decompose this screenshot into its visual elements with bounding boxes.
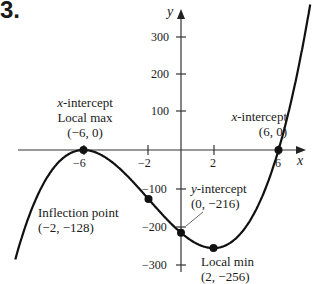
x-tick-label: 2	[210, 157, 216, 169]
key-point-marker	[177, 229, 185, 237]
y-tick-label: 100	[151, 105, 169, 117]
inflection-point-annotation: Inflection point (−2, −128)	[38, 205, 119, 235]
x-tick-label: −6	[73, 157, 86, 169]
y-tick-label: 300	[151, 31, 169, 43]
key-point-marker	[145, 195, 153, 203]
y-axis-arrow-icon	[177, 9, 185, 19]
y-tick-label: 200	[151, 68, 169, 80]
y-intercept-leader-line	[186, 212, 203, 226]
y-intercept-annotation: y-intercept (0, −216)	[191, 181, 247, 211]
local-min-annotation: Local min (2, −256)	[201, 254, 254, 284]
y-tick-label: −300	[142, 259, 167, 271]
key-point-marker	[275, 146, 283, 154]
y-axis-label: y	[167, 6, 173, 18]
x-tick-label: 6	[275, 157, 281, 169]
local-max-annotation: x-intercept Local max (−6, 0)	[44, 95, 126, 140]
x-tick-label: −2	[138, 157, 151, 169]
y-tick-label: −200	[142, 221, 167, 233]
y-tick-label: −100	[142, 183, 167, 195]
key-point-marker	[210, 244, 218, 252]
x-axis-label: x	[297, 155, 303, 167]
key-point-marker	[80, 146, 88, 154]
x-intercept-annotation: x-intercept (6, 0)	[207, 109, 287, 139]
